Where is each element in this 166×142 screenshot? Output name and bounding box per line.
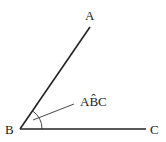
ray-ba: [20, 27, 90, 129]
angle-diagram: A B C AB̂C: [0, 0, 166, 142]
label-a: A: [85, 8, 95, 23]
leader-line: [33, 104, 74, 120]
angle-label: AB̂C: [80, 94, 107, 109]
label-b: B: [5, 122, 14, 137]
label-c: C: [150, 122, 159, 137]
